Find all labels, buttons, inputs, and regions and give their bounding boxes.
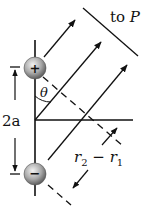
dipole-diagram: + − to P θ 2a r2 − r1 [0, 0, 151, 222]
path-diff-arrow-down [73, 170, 88, 188]
separation-label: 2a [2, 112, 21, 130]
to-p-label: to P [110, 8, 141, 26]
negative-sign: − [30, 166, 41, 181]
ray-from-positive [44, 20, 75, 57]
ray-from-negative [48, 65, 127, 160]
positive-charge: + [24, 57, 46, 79]
path-difference-label: r2 − r1 [74, 148, 123, 168]
positive-sign: + [30, 61, 41, 76]
negative-charge: − [24, 163, 46, 185]
theta-label: θ [40, 85, 48, 100]
dashed-perpendicular-bottom [48, 185, 71, 205]
path-diff-arrow-up [102, 128, 117, 145]
